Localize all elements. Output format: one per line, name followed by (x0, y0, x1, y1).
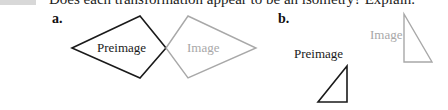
figures: Preimage Image Preimage Image (0, 0, 448, 110)
part-b-image-triangle (404, 14, 432, 62)
part-b-preimage-label: Preimage (294, 46, 343, 61)
part-a-image-label: Image (187, 40, 220, 55)
part-a-preimage-label: Preimage (97, 40, 146, 55)
part-b-image-label: Image (370, 27, 403, 42)
part-b-preimage-triangle (318, 66, 347, 102)
